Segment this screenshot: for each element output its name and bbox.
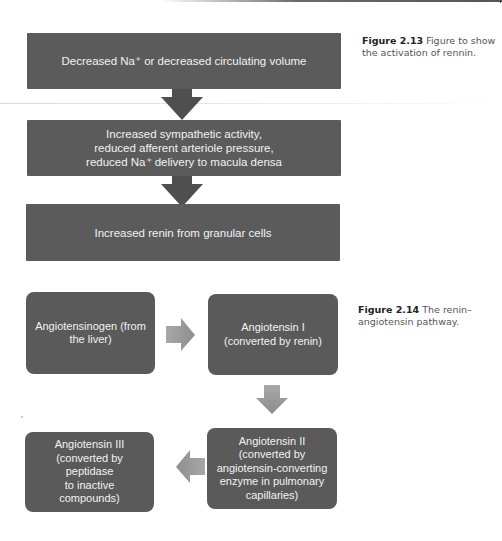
node-text: Angiotensinogen (from bbox=[35, 320, 146, 334]
caption-label: Figure 2.13 bbox=[362, 35, 423, 46]
step-text: Decreased Na⁺ or decreased circulating v… bbox=[61, 55, 306, 67]
node-angiotensin-i: Angiotensin I (converted by renin) bbox=[208, 294, 338, 375]
figure-2-13-caption: Figure 2.13 Figure to show the activatio… bbox=[362, 35, 502, 59]
figure-2-14-caption: Figure 2.14 The renin–angiotensin pathwa… bbox=[358, 304, 478, 328]
step-text: reduced afferent arteriole pressure, bbox=[86, 141, 282, 155]
step-decreased-sodium: Decreased Na⁺ or decreased circulating v… bbox=[27, 33, 341, 89]
node-text: Angiotensin II bbox=[217, 435, 328, 449]
show-through-line bbox=[0, 103, 502, 104]
node-text: Angiotensin I bbox=[224, 321, 322, 335]
step-increased-renin: Increased renin from granular cells bbox=[26, 204, 340, 261]
node-text: angiotensin-converting bbox=[217, 462, 328, 476]
page-top-rule-end bbox=[500, 0, 501, 3]
node-angiotensin-ii: Angiotensin II (converted by angiotensin… bbox=[207, 428, 337, 509]
node-angiotensinogen: Angiotensinogen (from the liver) bbox=[26, 292, 155, 374]
step-sympathetic-activity: Increased sympathetic activity, reduced … bbox=[27, 120, 341, 176]
node-text: (converted by peptidase bbox=[33, 452, 146, 479]
node-text: enzyme in pulmonary bbox=[217, 475, 328, 489]
node-text: capillaries) bbox=[217, 489, 328, 503]
caption-label: Figure 2.14 bbox=[358, 304, 419, 315]
node-text: (converted by renin) bbox=[224, 335, 322, 349]
step-text: Increased sympathetic activity, bbox=[86, 127, 282, 141]
step-text: reduced Na⁺ delivery to macula densa bbox=[86, 155, 282, 169]
page-top-rule bbox=[160, 0, 502, 2]
arrow-right-icon bbox=[166, 318, 196, 352]
arrow-down-icon bbox=[160, 89, 204, 121]
arrow-down-icon bbox=[256, 385, 288, 415]
node-text: Angiotensin III bbox=[33, 438, 146, 452]
node-angiotensin-iii: Angiotensin III (converted by peptidase … bbox=[25, 432, 154, 512]
arrow-left-icon bbox=[176, 450, 206, 484]
scan-speck bbox=[21, 416, 23, 418]
node-text: to inactive compounds) bbox=[33, 479, 146, 506]
step-text: Increased renin from granular cells bbox=[94, 227, 271, 239]
node-text: (converted by bbox=[217, 448, 328, 462]
node-text: the liver) bbox=[35, 333, 146, 347]
